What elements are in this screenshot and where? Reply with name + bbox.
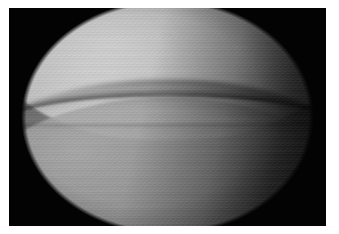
circular-field-of-view — [21, 8, 315, 226]
image-grain-texture — [21, 8, 315, 226]
arthroscopy-image-viewer — [0, 0, 339, 234]
photographic-plate — [9, 8, 326, 226]
